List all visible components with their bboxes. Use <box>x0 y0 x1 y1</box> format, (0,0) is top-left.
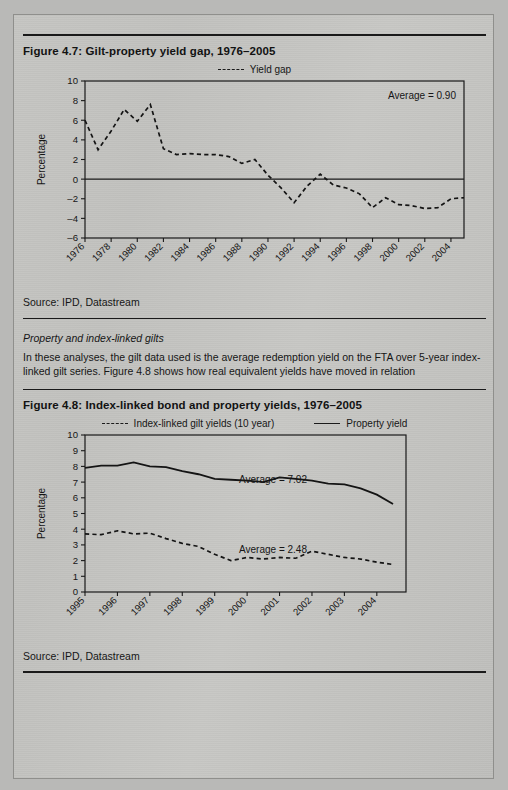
figure-4-8-chart: 012345678910Percentage199519961997199819… <box>23 429 486 644</box>
x-tick-label: 2002 <box>291 595 314 618</box>
x-tick-label: 2000 <box>226 595 249 618</box>
y-tick-label: 10 <box>67 429 78 440</box>
x-tick-label: 1996 <box>325 241 348 264</box>
y-tick-label: 6 <box>73 492 78 503</box>
x-tick-label: 1998 <box>351 241 374 264</box>
dashed-line-swatch-icon <box>218 69 244 70</box>
y-tick-label: 7 <box>73 477 78 488</box>
figure-4-7-legend: Yield gap <box>23 64 486 75</box>
x-tick-label: 1999 <box>193 595 216 618</box>
figure-4-8-title: Figure 4.8: Index-linked bond and proper… <box>23 399 486 411</box>
figure-4-7-source: Source: IPD, Datastream <box>23 296 486 308</box>
legend-item-index-linked-gilt-yields: Index-linked gilt yields (10 year) <box>102 418 275 429</box>
x-tick-label: 1992 <box>273 241 296 264</box>
x-tick-label: 1997 <box>128 595 151 618</box>
y-axis-title: Percentage <box>36 133 47 185</box>
x-tick-label: 1984 <box>168 240 191 263</box>
divider-before-figure-4-8 <box>23 389 486 390</box>
section-heading-property-and-index-linked-gilts: Property and index-linked gilts <box>23 332 486 344</box>
chart-2-svg: 012345678910Percentage199519961997199819… <box>23 429 484 644</box>
top-divider <box>23 34 486 36</box>
y-tick-label: 3 <box>73 539 78 550</box>
x-tick-label: 2000 <box>377 241 400 264</box>
chart-annotation: Average = 0.90 <box>388 90 456 101</box>
y-tick-label: 5 <box>73 508 78 519</box>
x-tick-label: 1995 <box>64 595 87 618</box>
y-tick-label: –2 <box>67 193 78 204</box>
y-tick-label: 0 <box>73 174 78 185</box>
x-tick-label: 2002 <box>403 241 426 264</box>
legend-label: Yield gap <box>250 64 291 75</box>
y-tick-label: 2 <box>73 555 78 566</box>
figure-4-8-source: Source: IPD, Datastream <box>23 650 486 662</box>
x-tick-label: 2004 <box>429 240 452 263</box>
series-line-yield-gap <box>85 105 464 209</box>
chart-annotation: Average = 2.48 <box>239 544 307 555</box>
x-tick-label: 1976 <box>64 241 87 264</box>
x-tick-label: 1994 <box>299 240 322 263</box>
y-tick-label: 2 <box>73 154 78 165</box>
y-tick-label: 4 <box>73 524 79 535</box>
x-tick-label: 1988 <box>220 241 243 264</box>
x-tick-label: 1980 <box>116 241 139 264</box>
y-tick-label: 9 <box>73 445 78 456</box>
figure-4-7-title: Figure 4.7: Gilt-property yield gap, 197… <box>23 45 486 57</box>
bottom-divider <box>23 671 486 673</box>
x-tick-label: 2004 <box>355 594 378 617</box>
y-tick-label: 8 <box>73 461 78 472</box>
x-tick-label: 1986 <box>194 241 217 264</box>
x-tick-label: 1990 <box>247 241 270 264</box>
x-tick-label: 1996 <box>96 595 119 618</box>
figure-4-8-legend: Index-linked gilt yields (10 year) Prope… <box>23 418 486 429</box>
y-axis-title: Percentage <box>36 487 47 539</box>
y-tick-label: 6 <box>73 115 78 126</box>
scanned-page: Figure 4.7: Gilt-property yield gap, 197… <box>13 14 494 779</box>
solid-line-swatch-icon <box>314 423 340 424</box>
y-tick-label: 8 <box>73 95 78 106</box>
y-tick-label: 10 <box>67 75 78 86</box>
x-tick-label: 1982 <box>142 241 165 264</box>
y-tick-label: 4 <box>73 134 79 145</box>
legend-item-yield-gap: Yield gap <box>218 64 291 75</box>
legend-label: Index-linked gilt yields (10 year) <box>134 418 275 429</box>
divider-after-figure-4-7 <box>23 318 486 319</box>
dashed-line-swatch-icon <box>102 423 128 424</box>
chart-annotation: Average = 7.02 <box>239 474 307 485</box>
body-paragraph: In these analyses, the gilt data used is… <box>23 351 486 378</box>
legend-item-property-yield: Property yield <box>314 418 407 429</box>
figure-4-7-chart: –6–4–20246810Percentage19761978198019821… <box>23 75 486 290</box>
x-tick-label: 1978 <box>90 241 113 264</box>
x-tick-label: 2003 <box>323 595 346 618</box>
x-tick-label: 1998 <box>161 595 184 618</box>
y-tick-label: –4 <box>67 213 78 224</box>
legend-label: Property yield <box>346 418 407 429</box>
x-tick-label: 2001 <box>258 595 281 618</box>
chart-1-svg: –6–4–20246810Percentage19761978198019821… <box>23 75 484 290</box>
y-tick-label: 1 <box>73 571 78 582</box>
